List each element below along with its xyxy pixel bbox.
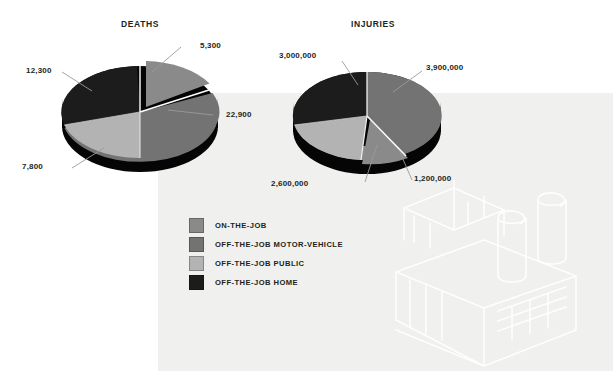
injuries-label-on-the-job: 1,200,000	[414, 174, 451, 183]
injuries-label-public: 2,600,000	[271, 179, 308, 188]
chart-legend: ON-THE-JOB OFF-THE-JOB MOTOR-VEHICLE OFF…	[189, 216, 343, 292]
legend-swatch-off-the-job-motor-vehicle	[189, 237, 204, 252]
legend-label-off-the-job-motor-vehicle: OFF-THE-JOB MOTOR-VEHICLE	[215, 240, 343, 249]
legend-item-off-the-job-public: OFF-THE-JOB PUBLIC	[189, 254, 343, 272]
legend-item-off-the-job-home: OFF-THE-JOB HOME	[189, 273, 343, 291]
legend-swatch-on-the-job	[189, 218, 204, 233]
legend-swatch-off-the-job-home	[189, 275, 204, 290]
deaths-label-home: 12,300	[26, 66, 52, 75]
deaths-label-on-the-job: 5,300	[200, 41, 221, 50]
legend-label-off-the-job-home: OFF-THE-JOB HOME	[215, 278, 298, 287]
injuries-label-motor-vehicle: 3,900,000	[426, 63, 463, 72]
legend-swatch-off-the-job-public	[189, 256, 204, 271]
legend-label-on-the-job: ON-THE-JOB	[215, 221, 267, 230]
deaths-label-motor-vehicle: 22,900	[226, 110, 252, 119]
legend-item-off-the-job-motor-vehicle: OFF-THE-JOB MOTOR-VEHICLE	[189, 235, 343, 253]
legend-label-off-the-job-public: OFF-THE-JOB PUBLIC	[215, 259, 305, 268]
deaths-leader-lines	[0, 0, 290, 200]
injuries-label-home: 3,000,000	[279, 51, 316, 60]
deaths-label-public: 7,800	[22, 162, 43, 171]
legend-item-on-the-job: ON-THE-JOB	[189, 216, 343, 234]
chart-canvas: DEATHS	[0, 0, 613, 371]
